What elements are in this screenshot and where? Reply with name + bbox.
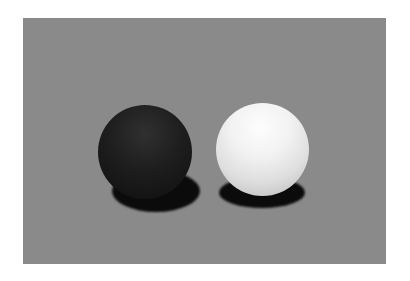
gray-backdrop: [23, 18, 386, 264]
black-sphere: [98, 105, 192, 199]
white-sphere: [216, 103, 309, 196]
